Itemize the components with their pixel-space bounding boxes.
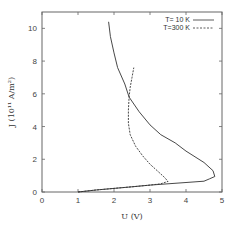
y-tick-label: 8 — [33, 57, 38, 66]
legend-label-300k: T=300 K — [163, 24, 190, 31]
x-tick-label: 3 — [148, 196, 153, 205]
y-tick-label: 0 — [33, 188, 38, 197]
x-axis-label: U (V) — [121, 212, 142, 221]
legend-label-10k: T= 10 K — [165, 16, 190, 23]
series-10k-line — [78, 22, 215, 192]
x-tick-label: 2 — [112, 196, 117, 205]
series-300k-line — [78, 68, 168, 192]
axis-ticks: 0123450246810 — [28, 12, 225, 205]
y-tick-label: 4 — [33, 123, 38, 132]
y-axis-label: J (10¹¹ A/m²) — [7, 77, 16, 128]
chart: 0123450246810 T= 10 K T=300 K U (V) J (1… — [0, 0, 239, 228]
x-tick-label: 4 — [184, 196, 189, 205]
y-tick-label: 10 — [28, 24, 37, 33]
x-tick-label: 1 — [76, 196, 81, 205]
x-tick-label: 5 — [220, 196, 225, 205]
legend: T= 10 K T=300 K — [163, 16, 214, 31]
y-tick-label: 2 — [33, 155, 38, 164]
y-tick-label: 6 — [33, 90, 38, 99]
data-series — [78, 22, 215, 192]
x-tick-label: 0 — [40, 196, 45, 205]
